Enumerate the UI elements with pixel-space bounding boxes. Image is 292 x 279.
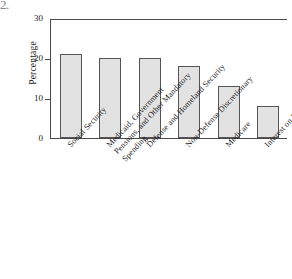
bar (60, 54, 82, 138)
y-axis-tick-label: 20 (20, 53, 43, 63)
y-axis-title: Percentage (28, 23, 38, 103)
y-axis-tick-label: 10 (20, 93, 43, 103)
bar-chart: Percentage 0102030 Social SecurityMedica… (0, 0, 292, 279)
y-axis-tick-label: 0 (20, 133, 43, 143)
y-axis-tick-label: 30 (20, 13, 43, 23)
bar (99, 58, 121, 138)
